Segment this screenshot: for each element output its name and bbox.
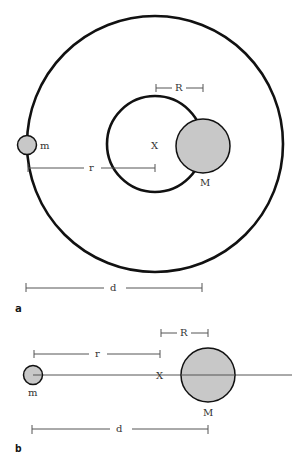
mass-M xyxy=(176,119,230,173)
label-m: m xyxy=(28,387,38,398)
label-d: d xyxy=(110,282,117,293)
label-M: M xyxy=(203,407,213,418)
panel-b: m M X R r d b xyxy=(15,327,292,455)
label-d: d xyxy=(116,423,123,434)
label-r: r xyxy=(89,162,94,173)
label-r: r xyxy=(95,348,100,359)
label-R: R xyxy=(180,327,188,338)
label-R: R xyxy=(175,82,183,93)
orbit-diagram: m M X R r d a xyxy=(0,0,306,476)
label-X: X xyxy=(151,140,159,151)
label-m: m xyxy=(40,140,50,151)
label-X: X xyxy=(156,370,164,381)
mass-m xyxy=(18,136,37,155)
label-M: M xyxy=(200,177,210,188)
panel-a: m M X R r d a xyxy=(15,16,283,315)
panel-label-b: b xyxy=(15,442,22,455)
panel-label-a: a xyxy=(15,302,22,315)
